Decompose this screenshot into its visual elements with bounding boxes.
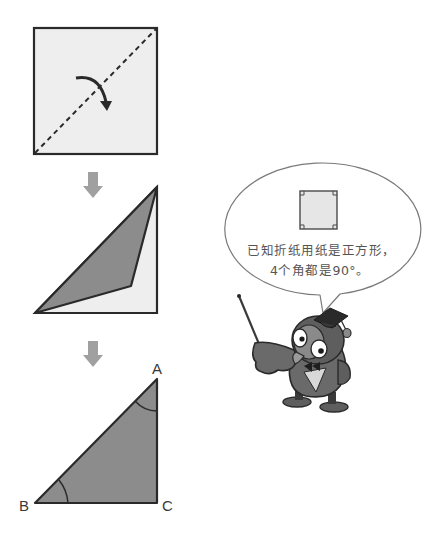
bubble-outline xyxy=(225,163,421,313)
step-2-partially-folded xyxy=(35,187,157,313)
owl-teacher-character xyxy=(237,294,351,412)
cap-tassel xyxy=(343,329,351,338)
step-arrow-down-icon xyxy=(83,172,103,198)
diagram-canvas: A B C 已知折纸用纸是正方形， 4个角都是90°。 xyxy=(0,0,427,539)
bubble-text-line-1: 已知折纸用纸是正方形， xyxy=(247,243,396,258)
owl-right-wing xyxy=(338,360,350,384)
speech-bubble: 已知折纸用纸是正方形， 4个角都是90°。 xyxy=(225,163,421,313)
vertex-label-a: A xyxy=(152,360,162,377)
triangle-abc xyxy=(35,379,157,503)
vertex-label-c: C xyxy=(162,497,173,514)
step-1-square xyxy=(34,28,157,154)
step-3-triangle-abc: A B C xyxy=(19,360,173,514)
square-right-angles-icon xyxy=(300,191,337,229)
step-arrow-down-icon xyxy=(83,341,103,367)
pointer-stick xyxy=(239,296,259,344)
vertex-label-b: B xyxy=(19,497,29,514)
owl-pointing-wing xyxy=(253,342,297,373)
bubble-text-line-2: 4个角都是90°。 xyxy=(270,263,370,278)
